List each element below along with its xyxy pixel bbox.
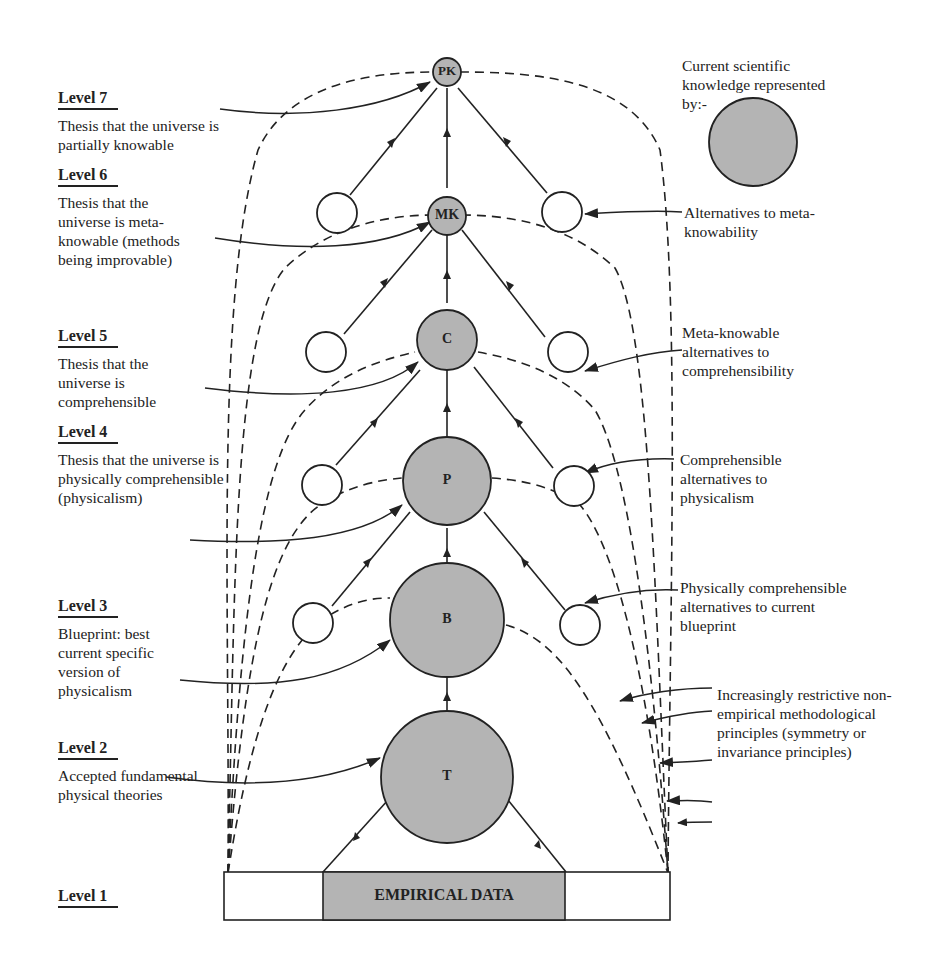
level-6-title: Level 6 [58, 165, 118, 187]
level-1: Level 1 [58, 886, 268, 914]
level-2-desc: Accepted fundamental physical theories [58, 766, 198, 804]
node-label-b: B [427, 611, 467, 627]
level-5-desc: Thesis that the universe is comprehensib… [58, 354, 178, 411]
label-alt-comprehensibility: Meta-knowable alternatives to comprehens… [682, 323, 842, 380]
level-2: Level 2 Accepted fundamental physical th… [58, 738, 268, 804]
node-label-t: T [427, 768, 467, 784]
level-6: Level 6 Thesis that the universe is meta… [58, 165, 268, 269]
alt-circle-l6-right [542, 192, 582, 232]
alt-circle-l5-right [548, 332, 588, 372]
label-alt-physicalism: Comprehensible alternatives to physicali… [680, 450, 830, 507]
level-4: Level 4 Thesis that the universe is phys… [58, 422, 268, 507]
alt-circle-l5-left [306, 332, 346, 372]
node-label-p: P [427, 472, 467, 488]
alt-circle-l4-right [554, 466, 594, 506]
level-6-desc: Thesis that the universe is meta-knowabl… [58, 193, 188, 269]
base-label: EMPIRICAL DATA [323, 886, 565, 904]
label-alt-blueprint: Physically comprehensible alternatives t… [680, 578, 860, 635]
level-3: Level 3 Blueprint: best current specific… [58, 596, 268, 700]
label-alt-meta-knowability: Alternatives to meta-knowability [684, 203, 834, 241]
level-5-title: Level 5 [58, 326, 118, 348]
alt-circle-l3-left [293, 603, 333, 643]
level-1-title: Level 1 [58, 886, 118, 908]
level-7-desc: Thesis that the universe is partially kn… [58, 116, 228, 154]
level-7: Level 7 Thesis that the universe is part… [58, 88, 268, 154]
alt-circle-l3-right [560, 605, 600, 645]
level-3-desc: Blueprint: best current specific version… [58, 624, 188, 700]
level-4-title: Level 4 [58, 422, 118, 444]
level-2-title: Level 2 [58, 738, 118, 760]
level-7-title: Level 7 [58, 88, 118, 110]
alt-circle-l6-left [317, 193, 357, 233]
level-3-title: Level 3 [58, 596, 118, 618]
level-4-desc: Thesis that the universe is physically c… [58, 450, 233, 507]
label-methodological-principles: Increasingly restrictive non-empirical m… [717, 685, 907, 761]
right-label-arrows [585, 211, 712, 823]
node-label-pk: PK [433, 63, 461, 79]
legend-text: Current scientific knowledge represented… [682, 56, 852, 113]
node-label-c: C [427, 331, 467, 347]
alt-circle-l4-left [302, 465, 342, 505]
level-5: Level 5 Thesis that the universe is comp… [58, 326, 268, 411]
node-label-mk: MK [428, 207, 466, 223]
